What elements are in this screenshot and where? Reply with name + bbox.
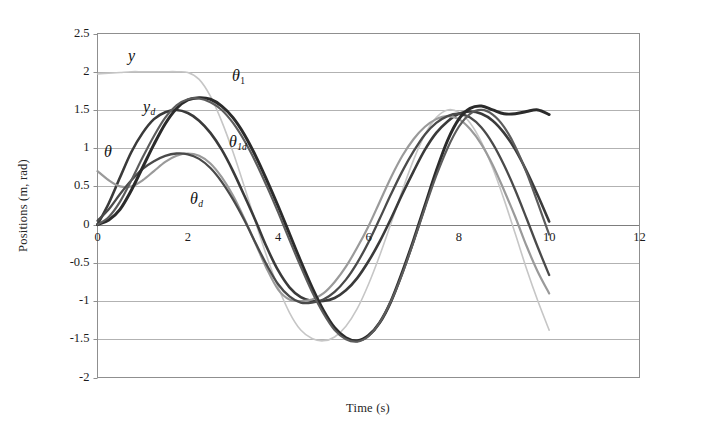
x-tick-label: 4 bbox=[261, 230, 295, 245]
x-tick-label: 0 bbox=[81, 230, 115, 245]
series-line-theta_1 bbox=[98, 98, 550, 341]
plot-frame bbox=[98, 34, 640, 378]
curve-label: θ bbox=[104, 144, 112, 160]
x-tick-label: 10 bbox=[532, 230, 566, 245]
curve-label: θd bbox=[190, 191, 203, 207]
curve-label: yd bbox=[143, 99, 155, 115]
y-axis-title: Positions (m, rad) bbox=[16, 111, 31, 301]
curve-label: θ1d bbox=[229, 134, 246, 150]
y-tick-label: 2 bbox=[46, 64, 90, 79]
y-tick-label: 2.5 bbox=[46, 26, 90, 41]
gridlines bbox=[98, 73, 640, 340]
tick-marks bbox=[94, 35, 98, 379]
x-tick-label: 8 bbox=[442, 230, 476, 245]
y-tick-label: -0.5 bbox=[46, 255, 90, 270]
y-tick-label: -1 bbox=[46, 293, 90, 308]
x-tick-label: 2 bbox=[171, 230, 205, 245]
y-tick-label: 1 bbox=[46, 140, 90, 155]
y-tick-label: 1.5 bbox=[46, 102, 90, 117]
series-line-theta_1d bbox=[98, 98, 550, 342]
x-tick-label: 12 bbox=[623, 230, 657, 245]
y-tick-label: -1.5 bbox=[46, 331, 90, 346]
chart-figure: 2.521.510.50-0.5-1-1.5-2 024681012 yydθθ… bbox=[0, 0, 714, 444]
series-line-theta bbox=[98, 116, 550, 301]
y-tick-label: 0.5 bbox=[46, 178, 90, 193]
curve-label: θ1 bbox=[232, 68, 245, 84]
curve-label: y bbox=[128, 48, 135, 64]
chart-svg bbox=[0, 0, 714, 444]
y-tick-label: -2 bbox=[46, 370, 90, 385]
x-tick-label: 6 bbox=[352, 230, 386, 245]
x-axis-title: Time (s) bbox=[268, 401, 468, 416]
series-line-y_d bbox=[98, 110, 550, 302]
